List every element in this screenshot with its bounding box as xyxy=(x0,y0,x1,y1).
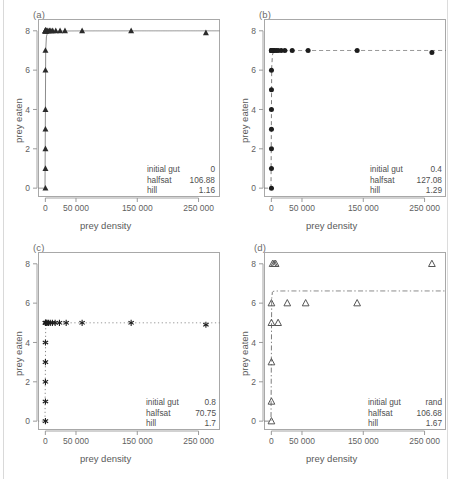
ann-val-hill: 1.16 xyxy=(199,185,215,196)
panel-d-xlabel: prey density xyxy=(306,453,357,464)
panel-c-annotation: initial gut0.8 halfsat70.75 hill1.7 xyxy=(146,397,216,429)
ann-key-initial-gut: initial gut xyxy=(147,164,180,175)
panel-d: (d) 02468050 000150 000250 000 prey eate… xyxy=(226,238,452,468)
x-tick-label: 250 000 xyxy=(183,203,214,213)
ann-val-initial-gut: 0 xyxy=(210,164,215,175)
ann-val-initial-gut: 0.4 xyxy=(430,164,442,175)
panel-a-xlabel: prey density xyxy=(80,220,131,231)
ann-key-initial-gut: initial gut xyxy=(146,397,179,408)
x-tick-label: 0 xyxy=(269,203,274,213)
data-point-marker xyxy=(43,379,48,385)
figure-page: (a) 02468050 000150 000250 000 prey eate… xyxy=(0,0,452,479)
x-tick-label: 150 000 xyxy=(122,203,153,213)
x-tick-label: 0 xyxy=(43,203,48,213)
ann-key-halfsat: halfsat xyxy=(368,408,392,419)
ann-key-halfsat: halfsat xyxy=(370,175,394,186)
data-point-marker xyxy=(268,359,275,365)
ann-key-initial-gut: initial gut xyxy=(370,164,403,175)
y-tick-label: 4 xyxy=(25,105,30,115)
y-tick-label: 2 xyxy=(25,377,30,387)
panel-b-ylabel: prey eaten xyxy=(239,98,250,143)
x-tick-label: 150 000 xyxy=(348,436,379,446)
data-point-marker xyxy=(269,87,274,92)
ann-val-hill: 1.67 xyxy=(426,418,442,429)
panel-c-data-layer: 02468050 000150 000250 000 xyxy=(0,238,226,468)
y-tick-label: 2 xyxy=(25,144,30,154)
x-tick-label: 0 xyxy=(43,436,48,446)
ann-key-halfsat: halfsat xyxy=(146,408,170,419)
data-point-marker xyxy=(43,359,48,365)
ann-val-halfsat: 127.08 xyxy=(417,175,442,186)
data-point-marker xyxy=(355,48,360,53)
x-tick-label: 50 000 xyxy=(289,203,315,213)
data-point-marker xyxy=(275,319,282,325)
panel-b-annotation: initial gut0.4 halfsat127.08 hill1.29 xyxy=(370,164,442,196)
y-tick-label: 4 xyxy=(251,338,256,348)
y-tick-label: 0 xyxy=(25,416,30,426)
y-tick-label: 6 xyxy=(25,65,30,75)
x-tick-label: 150 000 xyxy=(348,203,379,213)
y-tick-label: 8 xyxy=(251,26,256,36)
data-point-marker xyxy=(57,28,63,34)
x-tick-label: 0 xyxy=(269,436,274,446)
panel-a-data-layer: 02468050 000150 000250 000 xyxy=(0,0,226,238)
data-point-marker xyxy=(269,48,274,53)
ann-val-hill: 1.7 xyxy=(204,418,216,429)
data-point-marker xyxy=(42,146,48,152)
data-point-marker xyxy=(42,47,48,53)
data-point-marker xyxy=(62,28,68,34)
data-point-marker xyxy=(269,186,274,191)
ann-key-hill: hill xyxy=(370,185,380,196)
data-point-marker xyxy=(42,165,48,171)
panel-a-annotation: initial gut0 halfsat106.88 hill1.16 xyxy=(147,164,215,196)
x-tick-label: 250 000 xyxy=(409,203,440,213)
ann-val-halfsat: 106.88 xyxy=(190,175,215,186)
data-point-marker xyxy=(42,106,48,112)
y-tick-label: 0 xyxy=(25,183,30,193)
data-point-marker xyxy=(42,126,48,132)
y-tick-label: 8 xyxy=(25,26,30,36)
y-tick-label: 4 xyxy=(25,338,30,348)
panel-d-data-layer: 02468050 000150 000250 000 xyxy=(226,238,452,468)
data-point-marker xyxy=(42,67,48,73)
panel-d-annotation: initial gutrand halfsat106.68 hill1.67 xyxy=(368,397,442,429)
ann-key-hill: hill xyxy=(147,185,157,196)
panel-a: (a) 02468050 000150 000250 000 prey eate… xyxy=(0,0,226,238)
panel-b-data-layer: 02468050 000150 000250 000 xyxy=(226,0,452,238)
ann-key-hill: hill xyxy=(368,418,378,429)
data-point-marker xyxy=(302,300,309,306)
data-point-marker xyxy=(269,127,274,132)
data-point-marker xyxy=(57,320,62,326)
data-point-marker xyxy=(43,418,48,424)
x-tick-label: 250 000 xyxy=(183,436,214,446)
x-tick-label: 50 000 xyxy=(63,436,89,446)
data-point-marker xyxy=(269,146,274,151)
panel-c-xlabel: prey density xyxy=(80,453,131,464)
panel-d-ylabel: prey eaten xyxy=(239,331,250,376)
ann-key-halfsat: halfsat xyxy=(147,175,171,186)
ann-val-halfsat: 106.68 xyxy=(417,408,442,419)
ann-val-initial-gut: 0.8 xyxy=(204,397,216,408)
ann-val-initial-gut: rand xyxy=(425,397,442,408)
ann-key-initial-gut: initial gut xyxy=(368,397,401,408)
data-point-marker xyxy=(64,320,69,326)
data-point-marker xyxy=(269,68,274,73)
y-tick-label: 6 xyxy=(251,298,256,308)
x-tick-label: 50 000 xyxy=(289,436,315,446)
data-point-marker xyxy=(43,398,48,404)
ann-val-halfsat: 70.75 xyxy=(195,408,216,419)
data-point-marker xyxy=(306,48,311,53)
panel-a-ylabel: prey eaten xyxy=(13,98,24,143)
y-tick-label: 2 xyxy=(251,377,256,387)
data-point-marker xyxy=(354,300,361,306)
x-tick-label: 150 000 xyxy=(122,436,153,446)
data-point-marker xyxy=(290,48,295,53)
data-point-marker xyxy=(269,166,274,171)
figure-caption xyxy=(8,468,448,479)
y-tick-label: 4 xyxy=(251,105,256,115)
y-tick-label: 6 xyxy=(25,298,30,308)
panel-c: (c) 02468050 000150 000250 000 prey eate… xyxy=(0,238,226,468)
data-point-marker xyxy=(282,48,287,53)
y-tick-label: 2 xyxy=(251,144,256,154)
y-tick-label: 6 xyxy=(251,65,256,75)
